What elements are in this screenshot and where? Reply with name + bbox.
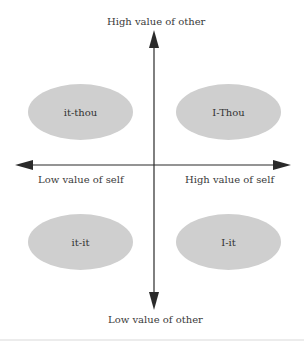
arrow-left-icon [15, 160, 33, 170]
quadrant-label: I-Thou [212, 107, 245, 118]
quadrant-ellipse-it-thou: it-thou [28, 84, 133, 140]
quadrant-diagram: High value of other Low value of self Hi… [0, 0, 304, 341]
arrow-up-icon [149, 30, 159, 48]
quadrant-ellipse-i-it: I-it [176, 214, 281, 270]
axes [0, 0, 304, 341]
axis-label-top: High value of other [107, 16, 205, 27]
quadrant-label: it-thou [64, 107, 98, 118]
axis-label-left: Low value of self [38, 174, 124, 185]
arrow-right-icon [273, 160, 291, 170]
arrow-down-icon [149, 292, 159, 310]
axis-label-right: High value of self [185, 174, 274, 185]
quadrant-label: it-it [72, 237, 90, 248]
quadrant-ellipse-it-it: it-it [28, 214, 133, 270]
quadrant-ellipse-i-thou: I-Thou [176, 84, 281, 140]
quadrant-label: I-it [221, 237, 236, 248]
axis-label-bottom: Low value of other [108, 314, 203, 325]
